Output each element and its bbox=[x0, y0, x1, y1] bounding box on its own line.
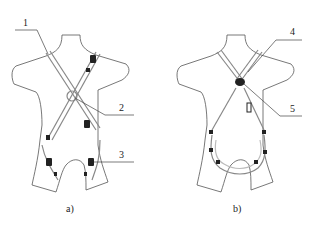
callout-4: 4 bbox=[290, 27, 295, 37]
callout-2: 2 bbox=[119, 103, 124, 113]
panel-a-body bbox=[12, 35, 129, 192]
callout-3: 3 bbox=[119, 150, 124, 160]
caption-b: b) bbox=[233, 204, 241, 214]
callout-1: 1 bbox=[23, 18, 28, 28]
panel-b-straps bbox=[211, 50, 265, 174]
panel-a-buckles bbox=[46, 55, 96, 176]
harness-diagram bbox=[0, 0, 317, 227]
callout-5: 5 bbox=[290, 104, 295, 114]
caption-a: a) bbox=[66, 204, 74, 214]
